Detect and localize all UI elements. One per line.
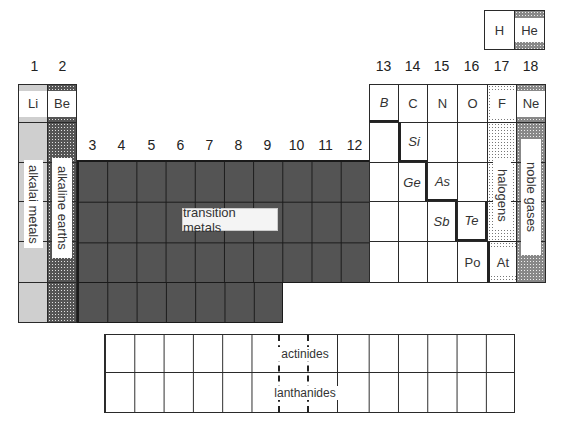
element-he: He bbox=[514, 10, 545, 50]
element-sb: Sb bbox=[427, 201, 458, 242]
element-as: As bbox=[427, 162, 458, 202]
label-halogens: halogens bbox=[493, 160, 511, 230]
group-number-6: 6 bbox=[166, 137, 195, 153]
group-number-12: 12 bbox=[340, 137, 369, 153]
group-number-5: 5 bbox=[137, 137, 166, 153]
symbol-f: F bbox=[490, 90, 514, 118]
group-number-10: 10 bbox=[282, 137, 311, 153]
label-lanthanides: lanthanides bbox=[270, 386, 340, 400]
group-number-15: 15 bbox=[427, 58, 456, 74]
element-h: H bbox=[484, 10, 515, 50]
symbol-be: Be bbox=[48, 91, 76, 117]
element-n: N bbox=[427, 84, 458, 123]
label-noble-gases: noble gases bbox=[521, 139, 541, 255]
label-alkaline-earths: alkaline earths bbox=[52, 158, 72, 258]
group-number-2: 2 bbox=[48, 58, 77, 74]
symbol-te: Te bbox=[465, 213, 479, 228]
group-number-17: 17 bbox=[487, 58, 516, 74]
group-number-14: 14 bbox=[398, 58, 427, 74]
f-block-divider-right bbox=[261, 372, 341, 373]
transition-metals-period7 bbox=[77, 282, 283, 323]
symbol-at: At bbox=[490, 248, 516, 276]
symbol-n: N bbox=[438, 96, 447, 111]
symbol-si: Si bbox=[408, 134, 420, 149]
element-at: At bbox=[487, 241, 517, 283]
symbol-o: O bbox=[467, 96, 477, 111]
symbol-ne: Ne bbox=[517, 91, 545, 117]
element-ne: Ne bbox=[516, 84, 546, 123]
group-number-13: 13 bbox=[369, 58, 398, 74]
f-block-col-right bbox=[337, 334, 338, 413]
p-cell-14-p6 bbox=[398, 241, 428, 283]
element-be: Be bbox=[47, 84, 77, 123]
symbol-ge: Ge bbox=[403, 175, 420, 190]
group-number-8: 8 bbox=[224, 137, 253, 153]
group-number-9: 9 bbox=[253, 137, 282, 153]
p-cell-14-p5 bbox=[398, 201, 428, 242]
element-si: Si bbox=[398, 122, 428, 163]
group-number-11: 11 bbox=[311, 137, 340, 153]
p-cell-13-p4 bbox=[369, 162, 399, 202]
p-cell-13-p5 bbox=[369, 201, 399, 242]
p-cell-16-p4 bbox=[457, 162, 488, 202]
group-number-1: 1 bbox=[20, 58, 49, 74]
element-li: Li bbox=[18, 84, 48, 123]
group-number-3: 3 bbox=[78, 137, 107, 153]
group-number-18: 18 bbox=[516, 58, 545, 74]
element-po: Po bbox=[457, 241, 488, 283]
element-o: O bbox=[457, 84, 488, 123]
alkali-cell-p7 bbox=[18, 282, 48, 323]
symbol-po: Po bbox=[465, 255, 481, 270]
group-number-4: 4 bbox=[107, 137, 136, 153]
symbol-h: H bbox=[495, 23, 504, 38]
alkaline-cell-p3 bbox=[47, 122, 77, 163]
alkaline-cell-p7 bbox=[47, 282, 77, 323]
symbol-he: He bbox=[515, 18, 544, 42]
alkali-cell-p3 bbox=[18, 122, 48, 163]
group-number-7: 7 bbox=[195, 137, 224, 153]
symbol-li: Li bbox=[19, 91, 47, 117]
p-cell-13-p3 bbox=[369, 122, 399, 163]
p-cell-16-p3 bbox=[457, 122, 488, 163]
element-te: Te bbox=[457, 201, 488, 242]
halogen-cell-p3 bbox=[487, 122, 517, 163]
p-cell-15-p3 bbox=[427, 122, 458, 163]
symbol-b: B bbox=[380, 95, 389, 110]
symbol-c: C bbox=[408, 96, 417, 111]
symbol-sb: Sb bbox=[434, 214, 450, 229]
label-actinides: actinides bbox=[275, 347, 335, 361]
element-f: F bbox=[487, 84, 517, 123]
group-number-16: 16 bbox=[457, 58, 486, 74]
p-cell-15-p6 bbox=[427, 241, 458, 283]
label-transition-metals: transition metals bbox=[182, 208, 278, 231]
element-b: B bbox=[369, 84, 399, 123]
p-cell-13-p6 bbox=[369, 241, 399, 283]
element-c: C bbox=[398, 84, 428, 123]
element-ge: Ge bbox=[398, 162, 428, 202]
symbol-as: As bbox=[435, 174, 450, 189]
label-alkali-metals: alkalai metals bbox=[24, 160, 43, 248]
